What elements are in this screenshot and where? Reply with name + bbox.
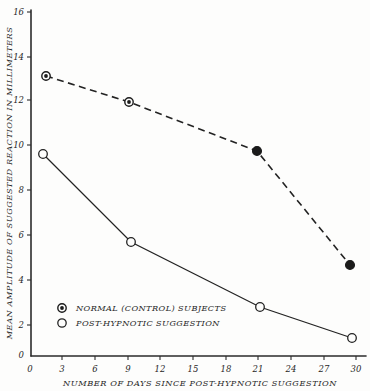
y-tick-label: 0 <box>19 350 25 360</box>
x-tick-label: 0 <box>27 364 33 374</box>
x-tick-labels: 0 3 6 9 12 15 18 21 24 27 30 <box>27 364 362 374</box>
y-tick-labels: 16 14 12 10 8 6 4 2 0 <box>13 7 24 360</box>
data-point-marker <box>256 303 265 312</box>
data-point-marker <box>39 150 48 159</box>
data-point-marker <box>253 147 262 156</box>
y-axis-title: MEAN AMPLITUDE OF SUGGESTED REACTION IN … <box>4 27 14 341</box>
x-tick-label: 24 <box>285 364 297 374</box>
x-tick-label: 21 <box>252 364 264 374</box>
x-tick-label: 15 <box>188 364 199 374</box>
x-tick-label: 18 <box>221 364 232 374</box>
x-tick-label: 12 <box>155 364 166 374</box>
legend-entry-normal-control: NORMAL (CONTROL) SUBJECTS <box>58 303 227 313</box>
data-point-marker <box>125 98 133 106</box>
y-tick-label: 6 <box>19 230 25 240</box>
y-tick-label: 16 <box>13 7 24 17</box>
series-normal-control-subjects <box>42 72 355 270</box>
x-tick-label: 3 <box>59 364 64 374</box>
x-tick-label: 30 <box>351 364 362 374</box>
series-line-dashed <box>46 76 350 265</box>
y-tick-label: 4 <box>18 275 24 285</box>
data-point-marker <box>348 334 357 343</box>
data-point-marker <box>346 261 355 270</box>
y-tick-label: 2 <box>18 320 24 330</box>
chart-container: 16 14 12 10 8 6 4 2 0 0 3 6 <box>0 0 370 391</box>
y-tick-label: 10 <box>13 140 24 150</box>
y-tick-label: 12 <box>13 95 24 105</box>
x-tick-label: 27 <box>318 364 330 374</box>
x-axis-title: NUMBER OF DAYS SINCE POST-HYPNOTIC SUGGE… <box>62 378 337 388</box>
line-chart-plot: 16 14 12 10 8 6 4 2 0 0 3 6 <box>0 0 370 391</box>
y-tick-label: 8 <box>19 185 25 195</box>
y-tick-label: 14 <box>13 52 24 62</box>
series-post-hypnotic-suggestion <box>39 150 357 343</box>
x-tick-label: 9 <box>125 364 131 374</box>
legend-marker-core-icon <box>60 306 64 310</box>
chart-legend: NORMAL (CONTROL) SUBJECTS POST-HYPNOTIC … <box>58 303 227 328</box>
data-point-marker <box>42 72 50 80</box>
legend-label: NORMAL (CONTROL) SUBJECTS <box>75 303 226 313</box>
data-point-marker <box>127 238 136 247</box>
x-tick-label: 6 <box>92 364 98 374</box>
legend-entry-post-hypnotic: POST-HYPNOTIC SUGGESTION <box>58 318 220 328</box>
legend-marker-open-circle-icon <box>58 319 66 327</box>
legend-label: POST-HYPNOTIC SUGGESTION <box>75 318 220 328</box>
